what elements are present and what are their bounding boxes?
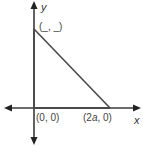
x-axis-label: x bbox=[133, 114, 140, 126]
x-axis-left-arrow-icon bbox=[4, 105, 12, 112]
y-axis-up-arrow-icon bbox=[31, 1, 38, 9]
x-intercept-label: (2a, 0) bbox=[83, 112, 112, 123]
coordinate-plane: y x (_, _) (0, 0) (2a, 0) bbox=[0, 0, 143, 146]
x-axis-right-arrow-icon bbox=[133, 105, 141, 112]
y-intercept-label: (_, _) bbox=[39, 21, 62, 32]
y-axis-down-arrow-icon bbox=[31, 137, 38, 145]
triangle-hypotenuse bbox=[34, 29, 110, 108]
origin-label: (0, 0) bbox=[36, 112, 59, 123]
y-axis-label: y bbox=[40, 1, 48, 13]
